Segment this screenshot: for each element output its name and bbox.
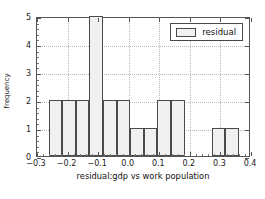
- x-tick: [190, 152, 191, 156]
- legend[interactable]: residual: [170, 23, 243, 41]
- x-minor-tick: [184, 154, 185, 156]
- y-tick: [245, 46, 249, 47]
- x-minor-tick: [202, 154, 203, 156]
- x-tick: [68, 152, 69, 156]
- y-minor-tick: [37, 35, 39, 36]
- x-tick: [190, 18, 191, 22]
- x-minor-tick: [208, 154, 209, 156]
- y-tick: [37, 130, 41, 131]
- x-minor-tick: [104, 154, 105, 156]
- chart-figure: residual −0.3−0.2−0.10.00.10.20.30.4 012…: [0, 0, 265, 199]
- y-tick: [245, 130, 249, 131]
- x-minor-tick: [141, 154, 142, 156]
- x-tick-label: −0.1: [87, 159, 106, 168]
- y-minor-tick: [37, 68, 39, 69]
- x-axis-title: residual:gdp vs work population: [36, 171, 250, 181]
- gridline-horizontal: [37, 74, 249, 75]
- histogram-bar: [157, 100, 171, 156]
- histogram-bar: [225, 128, 239, 156]
- x-minor-tick: [233, 154, 234, 156]
- x-minor-tick: [196, 154, 197, 156]
- x-minor-tick: [49, 154, 50, 156]
- histogram-bar: [76, 100, 90, 156]
- y-minor-tick: [37, 57, 39, 58]
- x-minor-tick: [147, 154, 148, 156]
- x-tick: [159, 18, 160, 22]
- x-tick: [98, 18, 99, 22]
- x-minor-tick: [214, 154, 215, 156]
- y-minor-tick: [37, 136, 39, 137]
- x-minor-tick: [227, 154, 228, 156]
- histogram-bar: [130, 128, 144, 156]
- x-tick-label: 0.3: [213, 159, 226, 168]
- histogram-bar: [144, 128, 158, 156]
- histogram-bar: [212, 128, 226, 156]
- histogram-bar: [117, 100, 131, 156]
- y-minor-tick: [37, 152, 39, 153]
- y-minor-tick: [37, 29, 39, 30]
- x-minor-tick: [239, 154, 240, 156]
- y-tick: [37, 46, 41, 47]
- legend-label-residual: residual: [202, 27, 236, 37]
- y-tick-label: 3: [17, 69, 31, 78]
- y-minor-tick: [37, 147, 39, 148]
- y-tick-label: 5: [17, 13, 31, 22]
- histogram-bar: [171, 100, 185, 156]
- histogram-bar: [89, 16, 103, 156]
- y-minor-tick: [37, 85, 39, 86]
- histogram-bar: [103, 100, 117, 156]
- y-minor-tick: [37, 113, 39, 114]
- y-minor-tick: [37, 63, 39, 64]
- x-minor-tick: [123, 154, 124, 156]
- y-axis-title: frequency: [3, 61, 11, 121]
- x-tick-label: −0.2: [57, 159, 76, 168]
- x-tick: [220, 152, 221, 156]
- x-tick: [220, 18, 221, 22]
- x-tick: [129, 18, 130, 22]
- y-tick: [37, 102, 41, 103]
- x-minor-tick: [55, 154, 56, 156]
- y-tick: [245, 18, 249, 19]
- x-tick: [251, 18, 252, 22]
- y-tick: [37, 74, 41, 75]
- x-tick-label: 0.0: [121, 159, 134, 168]
- y-minor-tick: [37, 91, 39, 92]
- x-minor-tick: [86, 154, 87, 156]
- y-minor-tick: [37, 124, 39, 125]
- histogram-bar: [49, 100, 63, 156]
- gridline-horizontal: [37, 46, 249, 47]
- y-minor-tick: [37, 80, 39, 81]
- y-minor-tick: [37, 24, 39, 25]
- histogram-bar: [62, 100, 76, 156]
- x-tick: [129, 152, 130, 156]
- y-minor-tick: [37, 141, 39, 142]
- y-tick: [37, 18, 41, 19]
- y-minor-tick: [37, 40, 39, 41]
- y-minor-tick: [37, 108, 39, 109]
- y-tick-label: 1: [17, 125, 31, 134]
- y-tick-label: 0: [17, 153, 31, 162]
- x-minor-tick: [153, 154, 154, 156]
- x-minor-tick: [135, 154, 136, 156]
- y-tick-label: 2: [17, 97, 31, 106]
- x-minor-tick: [172, 154, 173, 156]
- y-minor-tick: [37, 52, 39, 53]
- y-minor-tick: [37, 119, 39, 120]
- x-tick: [68, 18, 69, 22]
- y-minor-tick: [37, 96, 39, 97]
- y-tick: [245, 74, 249, 75]
- y-tick-label: 4: [17, 41, 31, 50]
- x-minor-tick: [74, 154, 75, 156]
- x-minor-tick: [116, 154, 117, 156]
- x-minor-tick: [110, 154, 111, 156]
- x-minor-tick: [92, 154, 93, 156]
- x-tick-label: 0.4: [244, 159, 257, 168]
- x-minor-tick: [61, 154, 62, 156]
- x-minor-tick: [80, 154, 81, 156]
- x-tick: [98, 152, 99, 156]
- x-minor-tick: [245, 154, 246, 156]
- x-tick: [159, 152, 160, 156]
- x-minor-tick: [43, 154, 44, 156]
- x-tick-label: 0.1: [152, 159, 165, 168]
- x-tick-label: 0.2: [182, 159, 195, 168]
